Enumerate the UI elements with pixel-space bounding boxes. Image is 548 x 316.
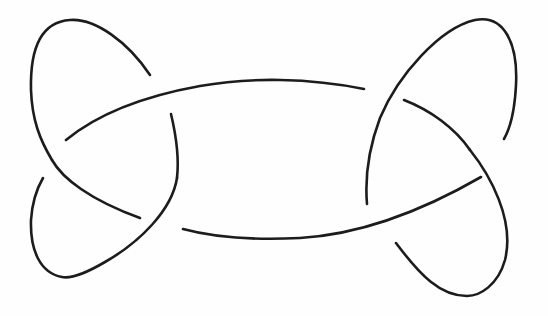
- knot-diagram: [0, 0, 548, 316]
- strand-right-inner-descent: [404, 100, 470, 150]
- strand-right-upper-loop: [366, 19, 516, 204]
- strand-left-lower-descent: [52, 160, 140, 218]
- knot-diagram-svg: [0, 0, 548, 316]
- strand-top-arc: [66, 80, 364, 140]
- strand-bottom-left-loop: [31, 178, 177, 277]
- strand-bottom-right-loop: [396, 150, 507, 296]
- strand-top-left-loop: [31, 20, 150, 160]
- strand-left-inner-vertical: [171, 114, 178, 178]
- strand-bottom-arc: [183, 177, 481, 239]
